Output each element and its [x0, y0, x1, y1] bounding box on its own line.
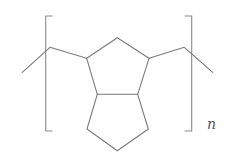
- upper-cyclopentane-ring: [87, 38, 149, 95]
- lower-cyclopentane-ring: [87, 94, 148, 150]
- right-chain-bond: [149, 47, 213, 72]
- right-bracket: [185, 16, 192, 131]
- left-bracket: [46, 16, 53, 131]
- left-chain-bond: [22, 47, 86, 72]
- repeat-unit-subscript: n: [207, 117, 216, 131]
- polymer-structure-diagram: [0, 0, 230, 156]
